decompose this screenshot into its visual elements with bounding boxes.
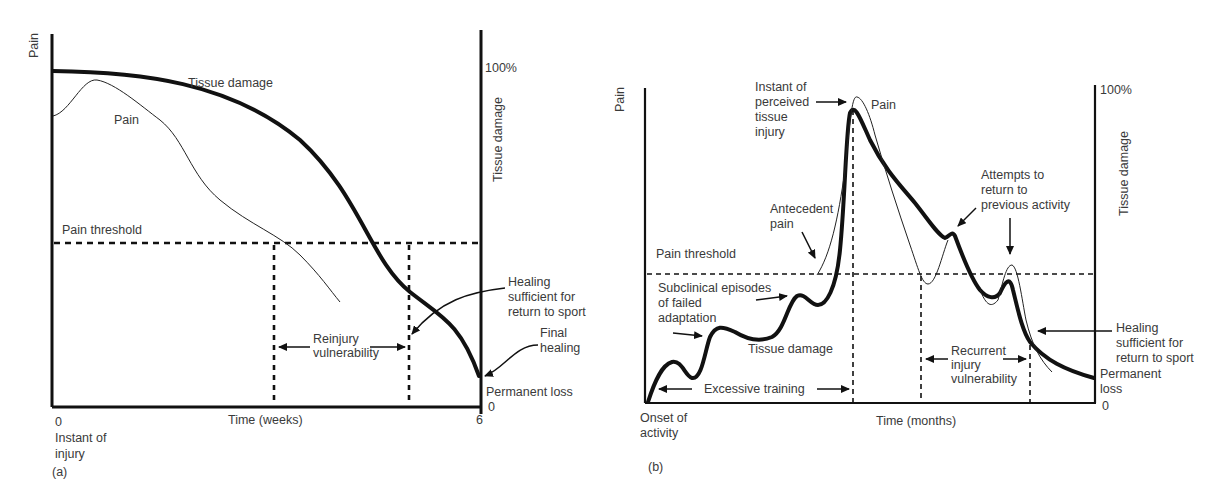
panel-a-healing-sport-line3: return to sport [508,305,586,319]
panel-b-recurrent-line1: Recurrent [951,344,1006,358]
panel-b-perceived-line3: tissue [755,110,788,124]
panel-b-subclinical-arrow-1 [756,296,787,300]
panel-a-x-start-note-line1: Instant of [55,431,107,445]
panel-a-pain-curve [53,80,340,302]
panel-b-antecedent-line2: pain [770,217,794,231]
panel-b-y-right-label: Tissue damage [1117,131,1131,216]
panel-a-y-right-label: Tissue damage [491,97,505,182]
panel-a-x-start-tick: 0 [55,415,62,429]
panel-b-perceived-line1: Instant of [755,80,807,94]
panel-a-permanent-loss: Permanent loss [486,385,573,399]
panel-b-caption: (b) [648,460,663,474]
panel-b-healing-sport-line3: return to sport [1116,351,1194,365]
panel-b-threshold-label: Pain threshold [656,247,736,261]
panel-b-x-label: Time (months) [876,414,956,428]
panel-b-excessive-training: Excessive training [704,382,805,396]
panel-b-perceived-line4: injury [755,125,786,139]
panel-a-threshold-label: Pain threshold [62,223,142,237]
panel-a-final-healing-line1: Final [540,326,567,340]
panel-b-healing-sport-line2: sufficient for [1116,336,1183,350]
panel-a-y-left-label: Pain [27,33,41,58]
panel-a-y-right-bottom-tick: 0 [488,400,495,414]
panel-b-tissue-damage-label: Tissue damage [748,342,833,356]
panel-b-recurrent-line2: injury [951,358,982,372]
panel-b-subclinical-line3: adaptation [658,311,716,325]
panel-a-reinjury-line2: vulnerability [313,346,380,360]
panel-a-final-healing-line2: healing [540,341,580,355]
panel-a-healing-sport-line1: Healing [508,275,550,289]
panel-b-subclinical-line1: Subclinical episodes [658,281,771,295]
panel-a-x-start-note-line2: injury [55,447,86,461]
panel-a-y-right-top-tick: 100% [485,61,517,75]
panel-a: Pain 100% Tissue damage 0 Pain threshold… [27,30,586,479]
panel-b-permanent-loss-line2: loss [1100,382,1122,396]
panel-b-perceived-line2: perceived [755,95,809,109]
panel-b-subclinical-arrow-2 [673,333,702,336]
panel-b-attempts-arrow-1 [958,208,976,226]
panel-b-y-right-bottom-tick: 0 [1102,399,1109,413]
panel-a-healing-sport-arrow [412,288,505,334]
panel-b-y-left-label: Pain [613,87,627,112]
panel-a-healing-sport-line2: sufficient for [508,290,575,304]
panel-a-caption: (a) [52,465,67,479]
panel-b-y-right-top-tick: 100% [1100,83,1132,97]
panel-b-x-start-note-line2: activity [640,426,679,440]
panel-b-antecedent-arrow [802,232,815,258]
panel-a-x-end-tick: 6 [476,413,483,427]
panel-b-x-start-note-line1: Onset of [640,411,688,425]
panel-a-pain-label: Pain [114,113,139,127]
panel-a-reinjury-line1: Reinjury [313,332,360,346]
figure-canvas: Pain 100% Tissue damage 0 Pain threshold… [0,0,1224,500]
panel-a-x-label: Time (weeks) [228,413,303,427]
panel-a-final-healing-arrow [485,345,538,376]
panel-a-tissue-damage-label: Tissue damage [188,76,273,90]
panel-b-pain-label: Pain [871,98,896,112]
panel-b: Pain 100% Tissue damage 0 Pain threshold… [613,80,1194,474]
panel-b-recurrent-line3: vulnerability [951,372,1018,386]
panel-b-healing-sport-line1: Healing [1116,321,1158,335]
panel-b-permanent-loss-line1: Permanent [1100,367,1162,381]
panel-b-subclinical-line2: of failed [658,296,702,310]
panel-b-attempts-line3: previous activity [981,198,1071,212]
panel-b-attempts-line2: return to [981,183,1028,197]
panel-b-attempts-line1: Attempts to [981,168,1044,182]
panel-b-antecedent-line1: Antecedent [770,202,834,216]
